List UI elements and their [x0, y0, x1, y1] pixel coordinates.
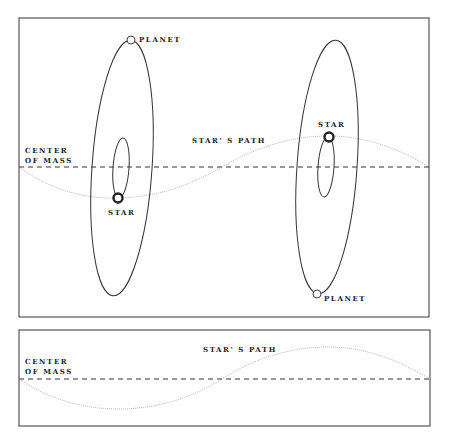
top-panel-frame [19, 18, 429, 317]
star-path-label: STAR' S PATH [192, 136, 266, 145]
star-icon [114, 194, 123, 203]
bottom-panel: CENTER OF MASS STAR' S PATH [19, 330, 430, 426]
star-path-label: STAR' S PATH [203, 345, 277, 354]
left-system: PLANET STAR [83, 35, 181, 298]
planet-orbit [83, 38, 161, 298]
star-icon [325, 133, 334, 142]
star-path-curve [19, 136, 429, 198]
star-orbit [111, 138, 131, 199]
star-path-curve [19, 347, 430, 409]
planet-icon [127, 36, 135, 44]
center-of-mass-label-line1: CENTER [25, 357, 68, 366]
star-label: STAR [108, 208, 136, 217]
star-label: STAR [318, 120, 346, 129]
star-wobble-diagram: PLANET STAR PLANET STAR CENTER OF MASS S… [0, 0, 449, 443]
planet-icon [313, 290, 321, 298]
top-panel: PLANET STAR PLANET STAR CENTER OF MASS S… [19, 18, 429, 317]
planet-label: PLANET [324, 294, 366, 303]
right-system: PLANET STAR [288, 38, 366, 303]
center-of-mass-label-line2: OF MASS [25, 367, 73, 376]
center-of-mass-label-line2: OF MASS [25, 156, 73, 165]
planet-label: PLANET [139, 35, 181, 44]
center-of-mass-label-line1: CENTER [25, 146, 68, 155]
